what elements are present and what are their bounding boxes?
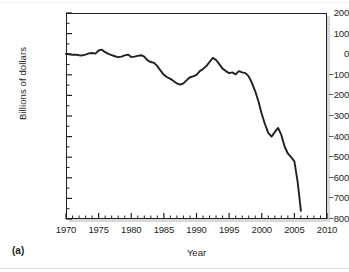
chart-svg bbox=[0, 0, 349, 272]
data-series-line bbox=[66, 50, 301, 211]
figure-panel: 2001000−100−200−300−400−500−600−700−800 … bbox=[0, 0, 349, 272]
